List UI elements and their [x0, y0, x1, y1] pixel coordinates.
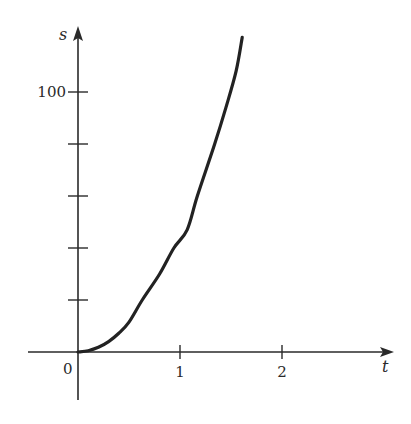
- x-ticks: 12: [175, 345, 287, 381]
- x-axis-label: t: [382, 357, 389, 376]
- y-ticks: 100: [37, 83, 88, 300]
- chart: 12 100 t s 0: [0, 0, 411, 424]
- axes: [28, 26, 394, 400]
- data-curve: [78, 37, 242, 352]
- x-tick-label: 2: [277, 363, 287, 381]
- y-axis-label: s: [59, 25, 67, 44]
- x-tick-label: 1: [175, 363, 185, 381]
- y-tick-label: 100: [37, 83, 66, 101]
- origin-label: 0: [63, 360, 73, 378]
